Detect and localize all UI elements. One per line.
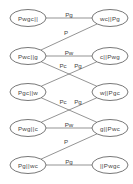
edge-label: Pg	[74, 98, 82, 105]
node-label: Pwgc||	[18, 15, 38, 22]
node-label: Pg||wc	[18, 162, 38, 169]
edge-line	[41, 134, 97, 159]
edge-n6-n7: Pw	[46, 121, 92, 129]
state-diagram: PgPPwPcPgPcPgPwPPg Pwgc||wc||PgPwc||gc||…	[0, 0, 133, 184]
edge-label: Pg	[65, 158, 73, 165]
edge-n1-n2: P	[41, 24, 97, 50]
nodes-layer: Pwgc||wc||PgPwc||gc||PwgPgc||ww||PgcPwg|…	[10, 10, 128, 174]
edge-label: Pg	[65, 11, 73, 18]
state-node: Pgc||w	[10, 84, 46, 101]
state-node: c||Pwg	[92, 48, 128, 65]
state-node: Pwc||g	[10, 48, 46, 65]
state-node: wc||Pg	[92, 10, 128, 27]
state-node: ||Pwgc	[92, 157, 128, 174]
node-label: ||Pwgc	[100, 162, 120, 169]
state-node: Pwgc||	[10, 10, 46, 27]
edge-n2-n3: Pw	[46, 49, 92, 57]
edge-label: Pg	[74, 62, 82, 69]
state-node: g||Pwc	[92, 120, 128, 137]
node-label: Pgc||w	[18, 89, 38, 96]
edge-line	[41, 24, 97, 50]
edge-n8-n9: Pg	[46, 158, 92, 166]
node-label: Pwg||c	[18, 125, 38, 132]
edge-label: P	[64, 29, 68, 36]
node-label: c||Pwg	[100, 53, 120, 60]
state-node: Pg||wc	[10, 157, 46, 174]
node-label: wc||Pg	[99, 15, 120, 22]
node-label: Pwc||g	[18, 53, 38, 60]
edge-label: P	[64, 138, 68, 145]
state-node: w||Pgc	[92, 84, 128, 101]
edge-label: Pw	[65, 49, 74, 56]
edge-label: Pc	[59, 62, 66, 69]
edge-label: Pc	[59, 98, 66, 105]
edges-layer: PgPPwPcPgPcPgPwPPg	[41, 11, 97, 166]
edge-n7-n8: P	[41, 134, 97, 159]
node-label: w||Pgc	[99, 89, 120, 96]
edge-label: Pw	[65, 121, 74, 128]
state-node: Pwg||c	[10, 120, 46, 137]
node-label: g||Pwc	[100, 125, 120, 132]
edge-n0-n1: Pg	[46, 11, 92, 19]
